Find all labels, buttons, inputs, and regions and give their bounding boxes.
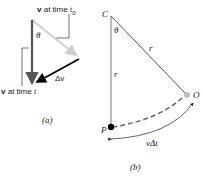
radius-CO <box>111 16 186 94</box>
caption-a: (a) <box>42 116 53 125</box>
figure-a <box>22 14 79 86</box>
point-O-marker <box>184 92 190 98</box>
point-P-marker <box>108 124 114 130</box>
leader-line-v-t0 <box>56 14 69 38</box>
label-theta-b: θ <box>114 26 118 35</box>
arc-arrow-vdt <box>111 103 193 139</box>
label-point-C: C <box>102 10 108 19</box>
label-point-O: O <box>193 91 200 100</box>
label-delta-v: Δv <box>55 75 64 83</box>
label-radius-CP: r <box>114 70 118 79</box>
label-v-at-time-t0: v at time t0 <box>37 6 75 16</box>
dashed-arc-PO <box>112 95 185 127</box>
figure-b <box>108 16 193 139</box>
label-arc-vdt: vΔt <box>146 139 158 148</box>
label-radius-CO: r <box>149 44 153 53</box>
label-theta-a: θ <box>36 31 40 40</box>
caption-b: (b) <box>130 163 141 172</box>
label-v-at-time-t: v at time t <box>1 88 36 96</box>
label-point-P: P <box>101 126 107 135</box>
leader-line-v-t <box>22 48 29 86</box>
